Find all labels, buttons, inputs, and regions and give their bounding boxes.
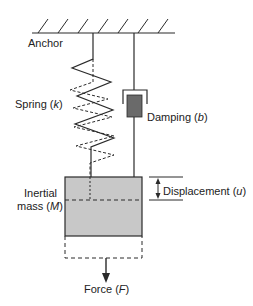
anchor-label: Anchor <box>28 37 63 49</box>
displacement-label: Displacement (u) <box>163 185 246 197</box>
damper <box>123 33 147 177</box>
mass-label-line2: mass (M) <box>17 200 63 212</box>
inertial-mass <box>65 177 142 258</box>
mass-displaced-outline <box>65 236 142 258</box>
damping-label: Damping (b) <box>147 111 208 123</box>
anchor <box>32 19 175 33</box>
spring <box>70 33 114 177</box>
spring-label: Spring (k) <box>15 98 63 110</box>
displacement-arrow-up-icon <box>156 178 161 184</box>
mass-label-line1: Inertial <box>24 187 57 199</box>
mass-block <box>65 177 142 236</box>
spring-coil <box>72 33 114 177</box>
displacement-arrow-down-icon <box>156 193 161 199</box>
force-label: Force (F) <box>84 283 129 295</box>
force-arrowhead-icon <box>102 273 110 283</box>
force-arrow <box>102 258 110 283</box>
damper-piston <box>127 95 142 117</box>
anchor-hatching <box>38 19 168 33</box>
spring-mass-damper-diagram: Anchor Spring (k) Damping (b) Inertial m… <box>0 0 253 306</box>
